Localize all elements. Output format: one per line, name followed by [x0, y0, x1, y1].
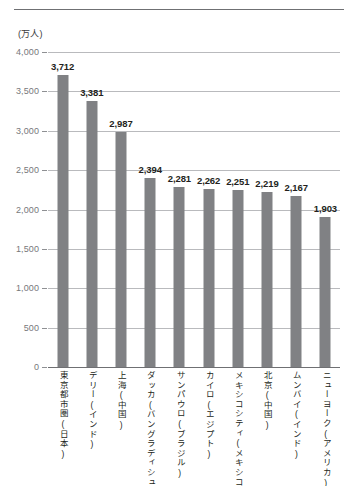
y-axis-tick-label: 3,500	[16, 86, 39, 96]
bar-group: 3,7123,3812,9872,3942,2812,2622,2512,219…	[48, 52, 340, 367]
x-axis-category-label: カイロ(エジプト)	[204, 371, 213, 483]
x-axis-label-slot: 北京(中国)	[252, 371, 281, 483]
bar-slot: 1,903	[311, 52, 340, 367]
bar-value-label: 2,394	[139, 164, 162, 175]
bar-value-label: 2,262	[197, 175, 220, 186]
bar[interactable]	[86, 101, 97, 367]
x-axis-label-group: 東京都市圏(日本)デリー(インド)上海(中国)ダッカ(バングラディシュ)サンパウ…	[48, 371, 340, 483]
x-axis-label-slot: サンパウロ(ブラジル)	[165, 371, 194, 483]
x-axis-category-label: サンパウロ(ブラジル)	[175, 371, 184, 483]
bar[interactable]	[203, 189, 214, 367]
bar-slot: 3,712	[48, 52, 77, 367]
bar-value-label: 2,281	[168, 173, 191, 184]
plot-area: 4,0003,5003,0002,5002,0001,5001,0005000 …	[48, 52, 340, 367]
y-axis-tick-label: 2,500	[16, 165, 39, 175]
y-axis-tick-label: 500	[24, 323, 39, 333]
y-axis-tick-label: 2,000	[16, 205, 39, 215]
x-axis-category-label: 上海(中国)	[117, 371, 126, 483]
y-axis-tick-mark	[42, 91, 47, 92]
y-axis-tick-label: 1,000	[16, 283, 39, 293]
y-axis-tick-mark	[42, 131, 47, 132]
bar-value-label: 2,219	[255, 178, 278, 189]
y-axis-tick-label: 4,000	[16, 47, 39, 57]
bar-slot: 2,987	[106, 52, 135, 367]
top-divider-rule	[14, 9, 344, 10]
x-axis-category-label: ダッカ(バングラディシュ)	[146, 371, 155, 483]
bar-slot: 2,262	[194, 52, 223, 367]
x-axis-label-slot: メキシコシティ(メキシコ)	[223, 371, 252, 483]
x-axis-label-slot: ニューヨーク(アメリカ)	[311, 371, 340, 483]
bar-value-label: 2,167	[285, 182, 308, 193]
bar-slot: 2,167	[282, 52, 311, 367]
bar-value-label: 3,712	[51, 61, 74, 72]
bar[interactable]	[261, 192, 272, 367]
bar[interactable]	[115, 132, 126, 367]
x-axis-category-label: ムンバイ(インド)	[292, 371, 301, 483]
y-axis-tick-label: 1,500	[16, 244, 39, 254]
y-axis-tick-mark	[42, 367, 47, 368]
x-axis-category-label: 北京(中国)	[263, 371, 272, 483]
y-axis-tick-mark	[42, 288, 47, 289]
y-axis-tick-mark	[42, 249, 47, 250]
x-axis-label-slot: ムンバイ(インド)	[282, 371, 311, 483]
bar[interactable]	[291, 196, 302, 367]
bar[interactable]	[174, 187, 185, 367]
bar[interactable]	[320, 217, 331, 367]
bar-value-label: 3,381	[80, 87, 103, 98]
bar[interactable]	[57, 75, 68, 367]
x-axis-label-slot: カイロ(エジプト)	[194, 371, 223, 483]
y-axis-tick-mark	[42, 52, 47, 53]
x-axis-category-label: デリー(インド)	[88, 371, 97, 483]
y-axis-unit-label: (万人)	[18, 27, 43, 40]
x-axis-category-label: ニューヨーク(アメリカ)	[321, 371, 330, 483]
x-axis-label-slot: ダッカ(バングラディシュ)	[136, 371, 165, 483]
bar-slot: 2,251	[223, 52, 252, 367]
y-axis-tick-mark	[42, 328, 47, 329]
bar-value-label: 1,903	[314, 203, 337, 214]
bar-value-label: 2,251	[226, 176, 249, 187]
x-axis-label-slot: デリー(インド)	[77, 371, 106, 483]
y-axis-tick-label: 3,000	[16, 126, 39, 136]
x-axis-category-label: 東京都市圏(日本)	[58, 371, 67, 483]
x-axis-label-slot: 上海(中国)	[106, 371, 135, 483]
bar[interactable]	[232, 190, 243, 367]
bar-slot: 2,219	[252, 52, 281, 367]
x-axis-category-label: メキシコシティ(メキシコ)	[234, 371, 243, 483]
bar-slot: 2,394	[136, 52, 165, 367]
chart-figure: (万人) 4,0003,5003,0002,5002,0001,5001,000…	[0, 0, 357, 486]
gridline	[48, 367, 340, 368]
bar-slot: 3,381	[77, 52, 106, 367]
y-axis-tick-mark	[42, 210, 47, 211]
x-axis-label-slot: 東京都市圏(日本)	[48, 371, 77, 483]
y-axis-tick-label: 0	[34, 362, 39, 372]
y-axis-tick-mark	[42, 170, 47, 171]
bar[interactable]	[145, 178, 156, 367]
bar-value-label: 2,987	[109, 118, 132, 129]
bar-slot: 2,281	[165, 52, 194, 367]
